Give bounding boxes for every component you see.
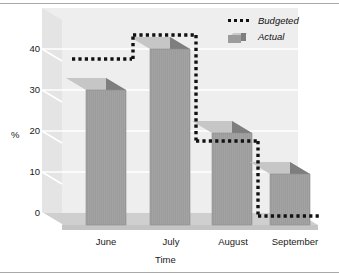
legend-label-budgeted: Budgeted: [258, 16, 299, 26]
x-tick-label-june: June: [76, 237, 136, 247]
y-tick-label-10: 10: [24, 167, 40, 177]
x-tick-label-september: September: [260, 237, 330, 247]
legend-label-actual: Actual: [258, 32, 284, 42]
legend-item-budgeted[interactable]: Budgeted: [227, 14, 331, 28]
y-tick-label-0: 0: [24, 208, 40, 218]
dotted-line-icon: [227, 15, 253, 27]
y-tick-label-30: 30: [24, 85, 40, 95]
y-tick-label-20: 20: [24, 126, 40, 136]
bar-swatch-icon: [227, 31, 253, 43]
bar-chart-3d: 40 30 20 10 0 % June July August Septemb…: [0, 0, 339, 275]
legend-item-actual[interactable]: Actual: [227, 30, 331, 44]
x-tick-label-august: August: [203, 237, 263, 247]
y-axis-title: %: [11, 130, 19, 140]
chart-figure: 40 30 20 10 0 % June July August Septemb…: [0, 0, 339, 275]
x-tick-label-july: July: [141, 237, 201, 247]
y-tick-label-40: 40: [24, 44, 40, 54]
x-axis-title: Time: [155, 255, 176, 265]
chart-legend: Budgeted Actual: [227, 14, 331, 44]
